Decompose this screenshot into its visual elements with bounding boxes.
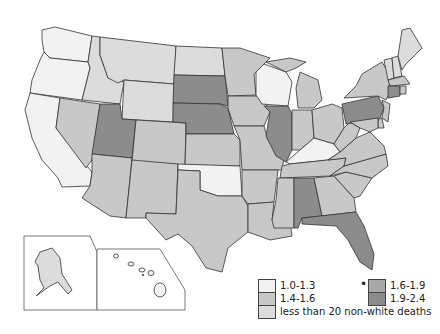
legend-label-2: 1.4-1.6 [280,294,315,304]
state-KS [185,134,240,166]
legend-swatch-3 [258,305,276,319]
legend-label-5: 1.9-2.4 [390,294,425,304]
state-AR [242,170,278,204]
state-NM [126,160,178,218]
state-NY [344,62,390,100]
state-ND [174,46,225,76]
legend-swatch-4 [368,279,386,293]
legend-marker: • [360,279,367,289]
state-WA [42,27,92,62]
state-MT [100,37,176,84]
map-legend: 1.0-1.3 1.4-1.6 less than 20 non-white d… [258,279,438,329]
state-WY [122,80,174,122]
state-RI [400,86,406,94]
state-MI [296,72,322,108]
state-ME [398,28,422,70]
legend-swatch-5 [368,292,386,306]
state-CT [388,86,400,98]
state-SD [173,75,228,106]
legend-swatch-2 [258,292,276,306]
state-NJ [382,100,390,122]
legend-swatch-1 [258,279,276,293]
state-CO [132,120,186,165]
state-FL [302,212,374,270]
state-DE [378,118,384,128]
hawaii-inset-frame [97,249,185,310]
legend-label-4: 1.6-1.9 [390,281,425,291]
legend-label-3: less than 20 non-white deaths [280,307,431,317]
legend-label-1: 1.0-1.3 [280,281,315,291]
